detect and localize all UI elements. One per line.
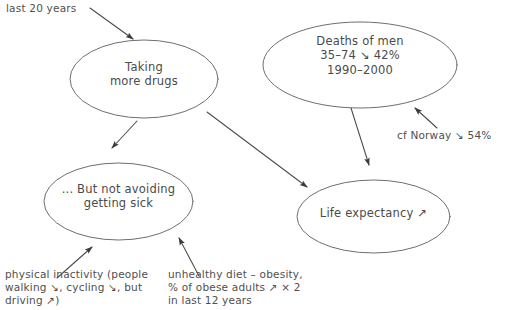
arrow-diet-to-sick [179, 238, 199, 276]
ellipse-not-avoiding-sick [44, 163, 193, 240]
arrow-inactivity-to-sick [57, 247, 92, 278]
diagram-strokes [0, 0, 510, 310]
arrow-drugs-to-life-expectancy [207, 112, 307, 187]
ellipse-deaths-of-men [263, 22, 457, 108]
arrow-last20-to-drugs [90, 8, 133, 39]
arrow-deaths-to-life-expectancy [351, 108, 369, 165]
arrow-norway-to-deaths [415, 108, 437, 128]
arrow-drugs-to-sick [112, 121, 137, 148]
diagram-canvas: Taking more drugs Deaths of men 35–74 ↘ … [0, 0, 510, 310]
ellipse-life-expectancy [297, 180, 450, 253]
ellipse-taking-more-drugs [70, 40, 218, 118]
